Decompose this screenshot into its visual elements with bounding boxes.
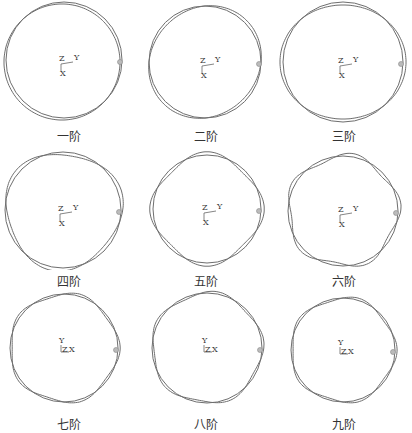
constraint-marker [258,348,263,353]
mode-caption: 三阶 [275,127,412,144]
mode-shape-panel: ZYX五阶 [137,145,274,289]
constraint-marker [399,62,404,67]
constraint-marker [391,350,396,355]
axis-label-y: Y [215,56,220,64]
axis-label-z: Z [62,346,68,354]
mode-shape-panel: ZYX四阶 [0,145,137,289]
mode-shape-panel: YZX九阶 [275,288,412,432]
constraint-marker [257,209,262,214]
mode-shape-panel: ZYX三阶 [275,0,412,144]
axis-label-x: X [69,346,75,354]
axis-label-z: Z [205,346,211,354]
mode-shape-panel: ZYX一阶 [0,0,137,144]
axis-label-x: X [339,72,345,80]
axis-label-x: X [348,348,354,356]
mode-caption: 八阶 [137,415,274,432]
axis-label-y: Y [73,204,78,212]
axis-label-z: Z [338,57,344,65]
mode-caption: 四阶 [0,272,137,289]
mode-shape-grid: ZYX一阶ZYX二阶ZYX三阶ZYX四阶ZYX五阶ZYX六阶YZX七阶YZX八阶… [0,0,412,433]
mode-caption: 五阶 [137,272,274,289]
axis-label-z: Z [59,55,65,63]
mode-caption: 九阶 [275,415,412,432]
axis-label-z: Z [202,204,208,212]
constraint-marker [394,211,399,216]
constraint-marker [118,60,123,65]
axis-label-y: Y [353,56,358,64]
constraint-marker [114,348,119,353]
mode-caption: 六阶 [275,272,412,289]
axis-label-y: Y [217,203,222,211]
axis-label-z: Z [200,57,206,65]
mode-caption: 一阶 [0,127,137,144]
axis-label-x: X [59,220,65,228]
axis-label-x: X [60,70,66,78]
mode-shape-panel: YZX八阶 [137,288,274,432]
axis-label-y: Y [59,337,64,345]
mode-shape-panel: YZX七阶 [0,288,137,432]
mode-caption: 七阶 [0,415,137,432]
mode-shape-panel: ZYX二阶 [137,0,274,144]
axis-label-y: Y [353,205,358,213]
axis-label-x: X [212,346,218,354]
constraint-marker [117,210,122,215]
axis-label-z: Z [338,206,344,214]
axis-label-x: X [201,72,207,80]
axis-label-z: Z [341,348,347,356]
mode-shape-panel: ZYX六阶 [275,145,412,289]
axis-label-x: X [339,221,345,229]
mode-caption: 二阶 [137,127,274,144]
axis-label-x: X [203,219,209,227]
axis-label-z: Z [58,205,64,213]
axis-label-y: Y [338,339,343,347]
axis-label-y: Y [74,54,79,62]
constraint-marker [257,62,262,67]
axis-label-y: Y [202,337,207,345]
